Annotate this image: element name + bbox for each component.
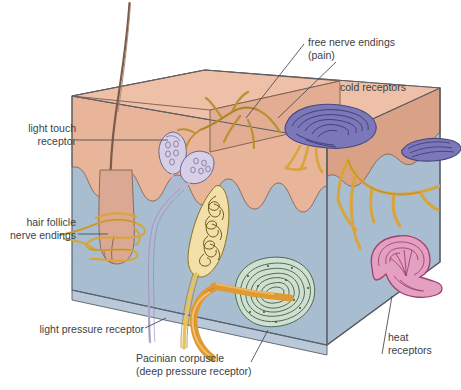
- skin-receptors-figure: light touch receptor hair follicle nerve…: [0, 0, 461, 390]
- label-pacinian-corpuscle: Pacinian corpuscle (deep pressure recept…: [136, 352, 252, 377]
- label-heat-receptors: heat receptors: [388, 331, 432, 356]
- label-cold-receptors: cold receptors: [340, 81, 406, 94]
- label-free-nerve-endings: free nerve endings (pain): [308, 36, 395, 61]
- label-light-pressure-receptor: light pressure receptor: [24, 323, 144, 336]
- label-hair-follicle-nerve-endings: hair follicle nerve endings: [4, 216, 76, 241]
- label-light-touch-receptor: light touch receptor: [14, 122, 76, 147]
